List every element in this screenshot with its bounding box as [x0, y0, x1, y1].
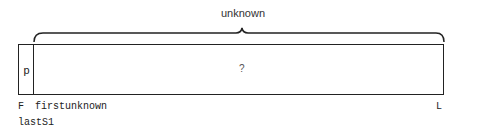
index-label-first-unknown: firstunknown: [35, 101, 107, 112]
unknown-mark: ?: [239, 63, 245, 74]
curly-brace-icon: [34, 28, 444, 42]
index-label-last-s1: lastS1: [18, 117, 54, 128]
pivot-label: p: [19, 65, 34, 77]
array-box: p ?: [18, 44, 444, 95]
index-label-first: F: [18, 101, 24, 112]
pivot-cell: p: [19, 45, 34, 94]
index-label-last: L: [436, 101, 442, 112]
unknown-region-label: unknown: [0, 7, 486, 19]
